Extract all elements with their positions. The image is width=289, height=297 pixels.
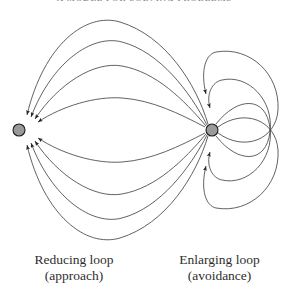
reducing-curve-upper-1 <box>27 20 208 124</box>
reducing-curve-lower-1 <box>27 136 208 240</box>
reducing-curve-upper-2 <box>31 41 207 125</box>
reducing-curve-lower-3 <box>35 134 206 195</box>
caption-reducing-loop: Reducing loop (approach) <box>0 252 148 284</box>
caption-enlarging-line1: Enlarging loop <box>150 252 289 268</box>
current-state-node[interactable] <box>206 124 218 136</box>
caption-reducing-line1: Reducing loop <box>0 252 148 268</box>
reducing-curve-lower-4 <box>38 133 205 162</box>
reducing-curve-lower-2 <box>31 135 207 219</box>
reducing-loop-curves <box>27 20 208 240</box>
caption-enlarging-loop: Enlarging loop (avoidance) <box>150 252 289 284</box>
reducing-curve-upper-3 <box>35 65 206 126</box>
reducing-curve-upper-4 <box>38 98 205 127</box>
caption-enlarging-line2: (avoidance) <box>150 268 289 284</box>
figure-container: A MODEL FOR SOLVING PROBLEMS <box>0 0 289 297</box>
caption-reducing-line2: (approach) <box>0 268 148 284</box>
goal-node[interactable] <box>13 124 25 136</box>
